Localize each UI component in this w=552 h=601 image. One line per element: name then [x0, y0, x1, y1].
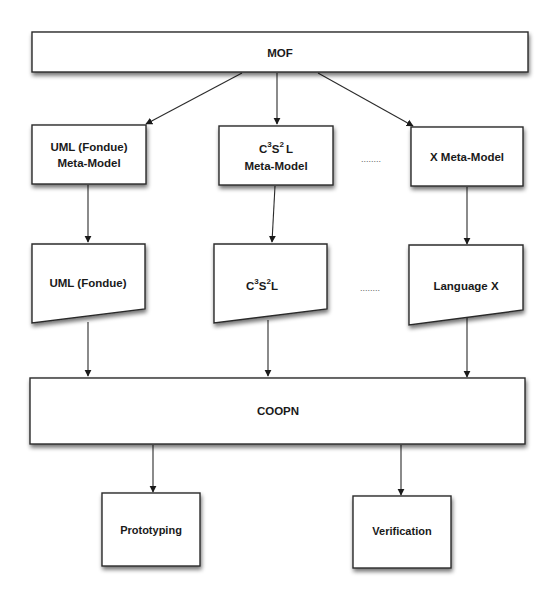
ellipsis-middle: ........ — [360, 283, 380, 293]
edge-mof-x-meta — [318, 73, 413, 126]
uml-meta-model-label-line1: UML (Fondue) — [50, 141, 127, 153]
uml-meta-model-label-line2: Meta-Model — [57, 157, 120, 169]
node-c3s2l-meta-model — [219, 126, 333, 185]
c3s2l-label: C3S2L — [246, 277, 278, 292]
ellipsis-top: ........ — [361, 154, 381, 164]
edge-c3s2l-meta-c3s2l — [272, 186, 275, 242]
c3s2l-meta-model-label-line1: C3S2L — [259, 140, 293, 155]
mof-label: MOF — [267, 47, 293, 59]
x-meta-model-label: X Meta-Model — [430, 151, 504, 163]
coopn-label: COOPN — [257, 405, 299, 417]
prototyping-label: Prototyping — [120, 524, 182, 536]
uml-fondue-label: UML (Fondue) — [49, 277, 126, 289]
language-x-label: Language X — [433, 280, 499, 292]
architecture-diagram: MOF UML (Fondue) Meta-Model C3S2L Meta-M… — [0, 0, 552, 601]
node-uml-meta-model — [32, 125, 146, 184]
c3s2l-meta-model-label-line2: Meta-Model — [244, 160, 307, 172]
verification-label: Verification — [372, 525, 432, 537]
edge-mof-uml-meta — [146, 73, 242, 124]
